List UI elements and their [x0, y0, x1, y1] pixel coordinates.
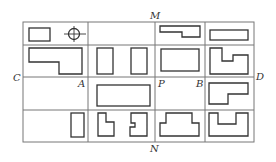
label-P: P — [157, 78, 165, 89]
label-D: D — [255, 71, 264, 82]
r1c1-rectangle-left — [97, 48, 113, 74]
r0c2-stepped-bar — [160, 26, 200, 37]
r3c1-L-shape — [98, 113, 114, 136]
diagram-canvas: M N C D A B P — [0, 0, 276, 162]
label-B: B — [195, 78, 203, 89]
r1c2-rectangle — [161, 49, 199, 71]
label-C: C — [13, 72, 21, 83]
r2c1-rectangle — [97, 85, 150, 106]
r3c3-U-shape — [209, 113, 248, 136]
r0c3-rectangle — [210, 30, 248, 40]
r3c2-T-shape — [160, 113, 199, 136]
r1c1-rectangle-right — [131, 48, 147, 74]
r3c1-L-shape-mirrored — [130, 113, 147, 136]
r0c0-rectangle — [29, 28, 50, 41]
r1c0-L-shape — [29, 48, 82, 74]
label-M: M — [149, 10, 161, 21]
crosshair-circle-icon — [64, 26, 86, 42]
r1c3-notched-shape — [210, 48, 248, 74]
label-A: A — [77, 78, 85, 89]
r2c3-L-shape — [209, 83, 248, 104]
r3c0-rectangle — [71, 113, 84, 137]
label-N: N — [149, 143, 160, 154]
